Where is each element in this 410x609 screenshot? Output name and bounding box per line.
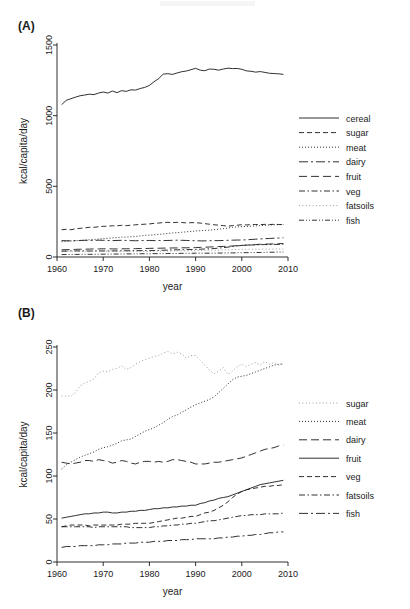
y-tick-label: 150 [44, 425, 54, 440]
panel-a-plot: 050010001500196019701980199020002010kcal… [0, 0, 410, 300]
x-tick-label: 2000 [232, 569, 252, 579]
legend-label-fatsoils: fatsoils [346, 201, 375, 211]
series-line-fatsoils [62, 249, 284, 251]
series-line-fish [62, 532, 284, 547]
y-axis-title: kcal/capita/day [18, 421, 29, 487]
x-axis-title: year [163, 586, 183, 597]
x-tick-label: 1960 [47, 569, 67, 579]
y-tick-label: 0 [44, 254, 54, 259]
series-line-meat [62, 364, 284, 469]
x-tick-label: 1990 [186, 569, 206, 579]
legend-label-sugar: sugar [346, 399, 369, 409]
axes: 050100150200250196019701980199020002010k… [18, 339, 298, 597]
legend: cerealsugarmeatdairyfruitvegfatsoilsfish [299, 114, 375, 226]
series-line-veg [62, 485, 284, 527]
legend-label-fruit: fruit [346, 454, 362, 464]
y-tick-label: 100 [44, 468, 54, 483]
legend-label-meat: meat [346, 417, 367, 427]
legend-label-fatsoils: fatsoils [346, 491, 375, 501]
x-tick-label: 1960 [47, 264, 67, 274]
y-axis-title: kcal/capita/day [18, 118, 29, 184]
x-tick-label: 2000 [232, 264, 252, 274]
series-line-fruit [62, 480, 284, 518]
panel-b-plot: 050100150200250196019701980199020002010k… [0, 300, 410, 609]
panel-a: (A) 050010001500196019701980199020002010… [0, 0, 410, 300]
legend-label-dairy: dairy [346, 435, 366, 445]
legend-label-veg: veg [346, 187, 361, 197]
x-tick-label: 1980 [139, 264, 159, 274]
series-group [62, 351, 284, 547]
legend-label-fish: fish [346, 216, 360, 226]
x-tick-label: 2010 [278, 264, 298, 274]
axes: 050010001500196019701980199020002010kcal… [18, 35, 298, 292]
legend-label-dairy: dairy [346, 157, 366, 167]
x-tick-label: 1990 [186, 264, 206, 274]
y-tick-label: 1500 [44, 35, 54, 55]
legend-label-veg: veg [346, 472, 361, 482]
legend-label-sugar: sugar [346, 128, 369, 138]
legend-label-fish: fish [346, 509, 360, 519]
y-tick-label: 0 [44, 559, 54, 564]
series-line-fish [62, 252, 284, 255]
legend-label-meat: meat [346, 143, 367, 153]
x-tick-label: 2010 [278, 569, 298, 579]
y-tick-label: 200 [44, 382, 54, 397]
x-tick-label: 1970 [93, 569, 113, 579]
y-tick-label: 1000 [44, 106, 54, 126]
y-tick-label: 500 [44, 179, 54, 194]
figure-container: (A) 050010001500196019701980199020002010… [0, 0, 410, 609]
series-line-fruit [62, 244, 284, 250]
series-line-dairy [62, 445, 284, 464]
legend-label-cereal: cereal [346, 114, 371, 124]
x-axis-title: year [163, 281, 183, 292]
panel-b: (B) 050100150200250196019701980199020002… [0, 300, 410, 609]
y-tick-label: 50 [44, 514, 54, 524]
legend-label-fruit: fruit [346, 172, 362, 182]
x-tick-label: 1970 [93, 264, 113, 274]
legend: sugarmeatdairyfruitvegfatsoilsfish [299, 399, 375, 519]
x-tick-label: 1980 [139, 569, 159, 579]
y-tick-label: 250 [44, 339, 54, 354]
series-group [62, 68, 284, 254]
series-line-cereal [62, 68, 284, 104]
